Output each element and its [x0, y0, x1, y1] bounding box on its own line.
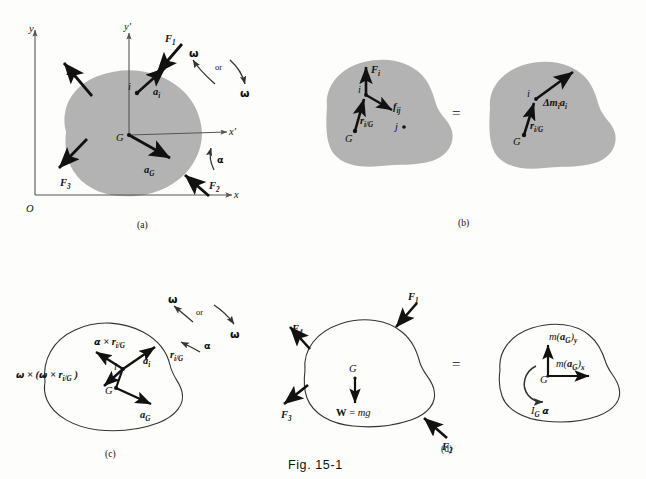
or-label-a: or: [215, 62, 222, 72]
center-of-mass-label-c: G: [105, 385, 113, 396]
omega-ccw-label-c: ω: [168, 293, 178, 306]
omega-ccw-label-a: ω: [189, 47, 199, 60]
particle-label-b-right: i: [527, 88, 530, 99]
alpha-label-c: α: [204, 340, 211, 351]
figure-caption: Fig. 15-1: [288, 458, 343, 472]
axis-origin-label: O: [26, 203, 34, 214]
or-label-c: or: [196, 307, 203, 317]
panel-tag-c: (c): [105, 449, 116, 460]
panel-tag-a: (a): [137, 220, 148, 231]
panel-tag-b: (b): [458, 218, 469, 229]
equals-sign-b: =: [452, 105, 460, 121]
center-of-mass-label-a: G: [116, 132, 124, 143]
particle-label-a: i: [128, 81, 131, 92]
center-of-mass-label-d-right: G: [540, 374, 548, 385]
panel-tag-d: (d): [441, 444, 452, 455]
weight-label-d: W = mg: [336, 407, 371, 418]
particle-label-b-left: i: [358, 84, 361, 95]
center-of-mass-label-d-left: G: [349, 363, 357, 374]
center-of-mass-label-b-right: G: [513, 136, 521, 147]
equals-sign-d: =: [452, 356, 460, 372]
figure-15-1: y x O y' x' G i ai aG F1 F4: [0, 0, 646, 479]
other-particle-point-b-left: [402, 125, 406, 129]
axis-y-prime-label: y': [123, 21, 132, 32]
axis-x-label: x: [233, 189, 239, 200]
alpha-label-a: α: [217, 154, 224, 165]
omega-cw-label-c: ω: [230, 328, 240, 341]
center-of-mass-label-b-left: G: [345, 133, 353, 144]
omega-cw-label-a: ω: [240, 87, 250, 100]
axis-x-prime-label: x': [228, 126, 237, 137]
axis-y-label: y: [28, 23, 34, 34]
